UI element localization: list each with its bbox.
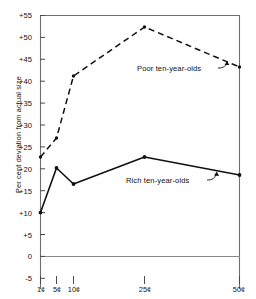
x-tick-label-50c: 50¢	[224, 285, 254, 294]
data-point-rich-10c	[72, 182, 76, 186]
series-line-poor	[41, 27, 240, 157]
y-tick-label-0: 0	[6, 252, 32, 261]
data-point-poor-5c	[55, 136, 58, 139]
data-point-rich-50c	[238, 173, 242, 177]
y-tick-label-20: +20	[6, 165, 32, 174]
x-tick-label-25c: 25¢	[130, 285, 160, 294]
data-point-poor-1c	[39, 155, 42, 158]
annotation-leader-rich	[207, 173, 217, 180]
y-tick-label-15: +15	[6, 187, 32, 196]
annotation-arrowhead-rich	[214, 172, 219, 176]
data-point-rich-25c	[143, 155, 147, 159]
y-tick-label-minus5: -5	[6, 274, 32, 283]
data-point-poor-25c	[143, 25, 146, 28]
series-label-poor: Poor ten-year-olds	[137, 64, 201, 73]
data-point-poor-50c	[238, 65, 241, 68]
x-axis-ticks	[41, 276, 240, 284]
plot-frame	[40, 15, 240, 289]
y-tick-label-10: +10	[6, 209, 32, 218]
data-point-rich-1c	[39, 211, 43, 215]
data-point-poor-10c	[72, 74, 75, 77]
y-tick-label-30: +30	[6, 121, 32, 130]
chart-canvas	[0, 0, 256, 299]
y-tick-label-35: +35	[6, 99, 32, 108]
chart-figure: Per cent deviation from actual size +55 …	[0, 0, 256, 299]
y-tick-label-55: +55	[6, 11, 32, 20]
data-point-rich-5c	[55, 166, 59, 170]
y-tick-label-5: +5	[6, 231, 32, 240]
y-tick-label-25: +25	[6, 143, 32, 152]
y-tick-label-50: +50	[6, 33, 32, 42]
x-tick-label-10c: 10¢	[59, 285, 89, 294]
y-tick-label-45: +45	[6, 55, 32, 64]
y-tick-label-40: +40	[6, 77, 32, 86]
series-label-rich: Rich ten-year-olds	[126, 176, 189, 185]
